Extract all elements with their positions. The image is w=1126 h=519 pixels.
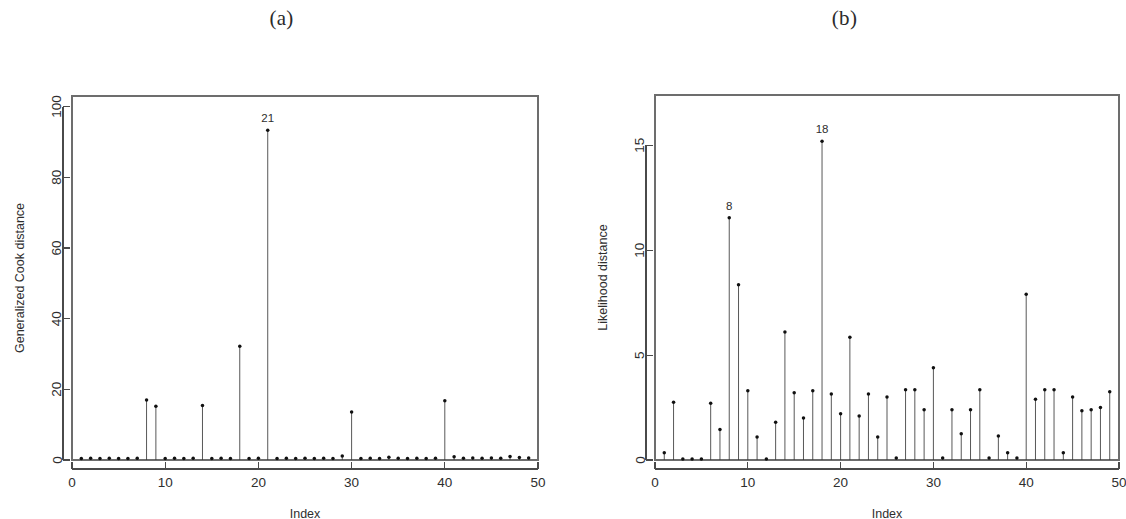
data-point	[932, 366, 936, 370]
data-point	[681, 457, 685, 461]
data-point	[746, 389, 750, 393]
data-point	[462, 456, 466, 460]
data-point	[848, 336, 852, 340]
x-tick-label: 50	[530, 475, 545, 490]
x-tick-label: 10	[158, 475, 173, 490]
data-point	[229, 457, 233, 461]
data-point	[987, 456, 991, 460]
data-point	[341, 454, 345, 458]
data-point	[490, 456, 494, 460]
data-point	[201, 404, 205, 408]
x-tick-label: 0	[651, 475, 659, 490]
data-point	[672, 401, 676, 405]
x-tick-label: 40	[437, 475, 452, 490]
data-point	[997, 434, 1001, 438]
data-point	[802, 416, 806, 420]
data-point	[396, 456, 400, 460]
data-point	[1080, 409, 1084, 413]
data-point	[1108, 390, 1112, 394]
y-tick-label: 100	[50, 95, 65, 118]
x-tick-label: 20	[833, 475, 848, 490]
data-point	[1052, 388, 1056, 392]
data-point	[154, 405, 158, 409]
data-point	[737, 283, 741, 287]
data-point	[406, 457, 410, 461]
data-point	[191, 456, 195, 460]
point-annotation-label: 8	[726, 200, 732, 212]
data-point	[219, 456, 223, 460]
data-point	[1071, 395, 1075, 399]
data-point	[922, 408, 926, 412]
data-point	[415, 456, 419, 460]
data-point	[1015, 456, 1019, 460]
data-point	[969, 408, 973, 412]
data-point	[480, 456, 484, 460]
data-point	[1006, 451, 1010, 455]
data-point	[718, 428, 722, 432]
x-tick-label: 30	[926, 475, 941, 490]
x-tick-label: 30	[344, 475, 359, 490]
data-point	[527, 456, 531, 460]
figure-two-panel-index-plots: (a) 0204060801000102030405021IndexGenera…	[0, 0, 1126, 519]
data-point	[765, 457, 769, 461]
data-point	[368, 456, 372, 460]
data-point	[266, 129, 270, 133]
data-point	[350, 410, 354, 414]
data-point	[950, 408, 954, 412]
data-point	[238, 344, 242, 348]
data-point	[145, 398, 149, 402]
data-point	[820, 139, 824, 143]
data-point	[424, 457, 428, 461]
data-point	[173, 456, 177, 460]
data-point	[182, 457, 186, 461]
data-point	[322, 456, 326, 460]
data-point	[275, 457, 279, 461]
y-axis-title: Likelihood distance	[596, 224, 610, 330]
panel-a: (a) 0204060801000102030405021IndexGenera…	[0, 0, 563, 519]
data-point	[904, 388, 908, 392]
data-point	[978, 388, 982, 392]
data-point	[313, 457, 317, 461]
data-point	[443, 399, 447, 403]
point-annotation-label: 21	[261, 112, 274, 124]
data-point	[792, 391, 796, 395]
data-point	[163, 457, 167, 461]
data-point	[499, 456, 503, 460]
y-tick-label: 15	[633, 138, 648, 153]
data-point	[108, 456, 112, 460]
data-point	[359, 457, 363, 461]
y-tick-label: 0	[633, 456, 648, 464]
data-point	[959, 432, 963, 436]
y-tick-label: 80	[50, 170, 65, 185]
x-tick-label: 10	[740, 475, 755, 490]
data-point	[811, 389, 815, 393]
data-point	[1043, 388, 1047, 392]
data-point	[709, 402, 713, 406]
data-point	[913, 388, 917, 392]
panel-a-plot: 0204060801000102030405021IndexGeneralize…	[0, 0, 563, 519]
data-point	[331, 457, 335, 461]
x-tick-label: 20	[251, 475, 266, 490]
y-tick-label: 20	[50, 382, 65, 397]
plot-box	[72, 96, 538, 460]
data-point	[135, 456, 139, 460]
data-point	[80, 457, 84, 461]
data-point	[452, 455, 456, 459]
y-tick-label: 5	[633, 351, 648, 359]
data-point	[941, 456, 945, 460]
x-tick-label: 50	[1111, 475, 1126, 490]
data-point	[727, 216, 731, 220]
data-point	[867, 392, 871, 396]
y-tick-label: 60	[50, 240, 65, 255]
data-point	[1034, 397, 1038, 401]
x-tick-label: 0	[68, 475, 76, 490]
data-point	[294, 457, 298, 461]
data-point	[303, 456, 307, 460]
data-point	[839, 412, 843, 416]
data-point	[1089, 408, 1093, 412]
data-point	[285, 456, 289, 460]
data-point	[117, 457, 121, 461]
data-point	[126, 457, 130, 461]
data-point	[434, 456, 438, 460]
y-tick-label: 40	[50, 311, 65, 326]
